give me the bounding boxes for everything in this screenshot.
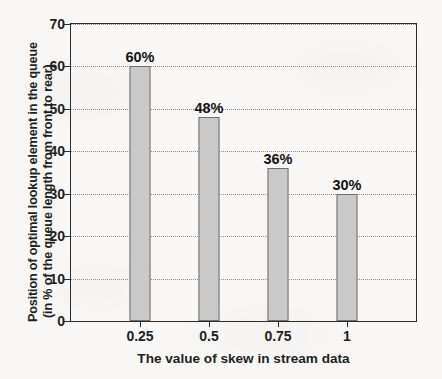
plot-area: 0102030405060700.250.50.751 60%48%36%30% (70, 23, 417, 322)
plot-inner (71, 24, 416, 321)
gridline-y-40 (71, 151, 416, 152)
x-axis-title: The value of skew in stream data (70, 351, 417, 366)
bar[interactable]: 36% (268, 168, 289, 321)
x-tick-mark-1 (347, 321, 348, 327)
bar-value-label: 30% (332, 177, 361, 193)
y-axis-title-line-1: Position of optimal lookup element in th… (26, 42, 40, 322)
x-tick-mark-0.25 (140, 321, 141, 327)
y-tick-label-70: 70 (49, 16, 65, 32)
x-tick-label-0.5: 0.5 (199, 328, 218, 344)
gridline-y-30 (71, 194, 416, 195)
bar-chart-figure: Position of optimal lookup element in th… (0, 0, 442, 379)
gridline-y-70 (71, 24, 416, 25)
y-axis-title: Position of optimal lookup element in th… (0, 0, 46, 340)
x-tick-mark-0.75 (278, 321, 279, 327)
bar-value-label: 60% (125, 49, 154, 65)
x-tick-label-1: 1 (343, 328, 351, 344)
gridline-y-50 (71, 109, 416, 110)
y-tick-label-20: 20 (49, 228, 65, 244)
bar-value-label: 48% (194, 100, 223, 116)
x-tick-label-0.25: 0.25 (126, 328, 153, 344)
bar[interactable]: 48% (199, 117, 220, 321)
bar[interactable]: 30% (337, 194, 358, 321)
y-tick-label-40: 40 (49, 143, 65, 159)
bar[interactable]: 60% (130, 66, 151, 321)
y-tick-label-50: 50 (49, 101, 65, 117)
gridline-y-60 (71, 66, 416, 67)
y-tick-label-10: 10 (49, 271, 65, 287)
gridline-y-10 (71, 279, 416, 280)
x-tick-mark-0.5 (209, 321, 210, 327)
bar-value-label: 36% (263, 151, 292, 167)
gridline-y-20 (71, 236, 416, 237)
y-tick-label-30: 30 (49, 186, 65, 202)
x-tick-label-0.75: 0.75 (264, 328, 291, 344)
y-tick-label-60: 60 (49, 58, 65, 74)
y-tick-label-0: 0 (57, 313, 65, 329)
